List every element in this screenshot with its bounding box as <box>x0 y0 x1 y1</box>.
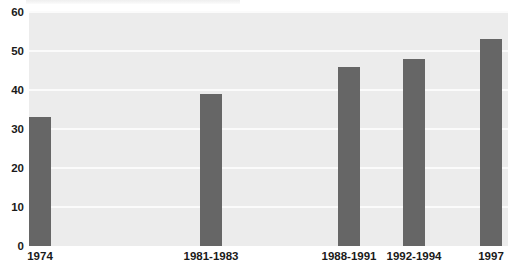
y-axis-tick-label: 20 <box>11 163 24 174</box>
bar-chart: 0102030405060 19741981-19831988-19911992… <box>0 0 517 270</box>
bar <box>403 59 425 246</box>
y-axis-tick-label: 40 <box>11 85 24 96</box>
y-axis-tick-label: 60 <box>11 7 24 18</box>
y-axis-tick-label: 10 <box>11 202 24 213</box>
bars-layer <box>29 12 508 246</box>
y-axis: 0102030405060 <box>0 0 29 270</box>
x-axis-tick-label: 1981-1983 <box>184 250 239 263</box>
y-axis-tick-label: 30 <box>11 124 24 135</box>
bar <box>200 94 222 246</box>
x-axis-tick-label: 1988-1991 <box>322 250 377 263</box>
bar <box>338 67 360 246</box>
bar <box>480 39 502 246</box>
x-axis-tick-label: 1974 <box>27 250 53 263</box>
plot-area <box>29 12 508 246</box>
x-axis-tick-label: 1997 <box>478 250 504 263</box>
x-axis: 19741981-19831988-19911992-19941997 <box>0 250 517 270</box>
y-axis-tick-label: 50 <box>11 46 24 57</box>
cropped-title-bar <box>26 0 240 4</box>
x-axis-tick-label: 1992-1994 <box>387 250 442 263</box>
bar <box>29 117 51 246</box>
